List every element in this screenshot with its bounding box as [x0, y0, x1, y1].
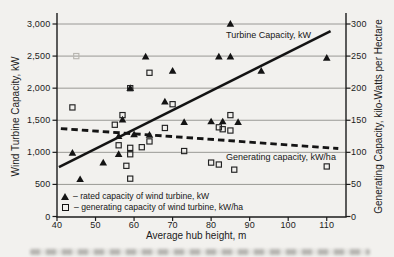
- illegible-caption: [30, 249, 370, 255]
- right-axis-title: Generating Capacity, kilo-Watts per Hect…: [373, 11, 384, 223]
- right-axis-tick-label: 150: [351, 115, 367, 125]
- left-axis-tick-label: 1,500: [17, 115, 51, 125]
- x-axis-tick-label: 80: [196, 220, 226, 230]
- x-axis-tick-label: 100: [273, 220, 303, 230]
- right-axis-tick-label: 200: [351, 83, 367, 93]
- x-axis-tick-label: 50: [81, 220, 111, 230]
- legend-item-label: – generating capacity of wind turbine, k…: [74, 202, 243, 212]
- legend: – rated capacity of wind turbine, kW – g…: [61, 191, 243, 212]
- left-axis-tick-label: 3,000: [17, 19, 51, 29]
- legend-item-generating-capacity: – generating capacity of wind turbine, k…: [61, 202, 243, 212]
- x-axis-title: Average hub height, m: [146, 230, 246, 241]
- right-axis-tick-label: 250: [351, 51, 367, 61]
- open-square-icon: [62, 204, 69, 211]
- right-axis-tick-label: 50: [351, 179, 361, 189]
- filled-triangle-icon: [61, 193, 69, 200]
- legend-item-rated-capacity: – rated capacity of wind turbine, kW: [61, 191, 243, 201]
- right-axis-tick-label: 100: [351, 147, 367, 157]
- x-axis-tick-label: 90: [235, 220, 265, 230]
- legend-item-label: – rated capacity of wind turbine, kW: [73, 191, 209, 201]
- left-axis-title: Wind Turbine Capacity, kW: [10, 37, 21, 197]
- plot-canvas: [0, 0, 394, 257]
- x-axis-tick-label: 70: [158, 220, 188, 230]
- right-axis-tick-label: 300: [351, 19, 367, 29]
- x-axis-tick-label: 60: [119, 220, 149, 230]
- x-axis-tick-label: 110: [312, 220, 342, 230]
- x-axis-tick-label: 40: [42, 220, 72, 230]
- left-axis-tick-label: 500: [17, 179, 51, 189]
- trendline-label-generating-capacity: Generating capacity, kW/ha: [226, 152, 336, 162]
- left-axis-tick-label: 2,000: [17, 83, 51, 93]
- scatter-chart-figure: 0 500 1,000 1,500 2,000 2,500 3,000 0 50…: [0, 0, 394, 257]
- trendline-label-turbine-capacity: Turbine Capacity, kW: [226, 30, 311, 40]
- right-axis-tick-label: 0: [351, 212, 356, 222]
- left-axis-tick-label: 2,500: [17, 51, 51, 61]
- left-axis-tick-label: 1,000: [17, 147, 51, 157]
